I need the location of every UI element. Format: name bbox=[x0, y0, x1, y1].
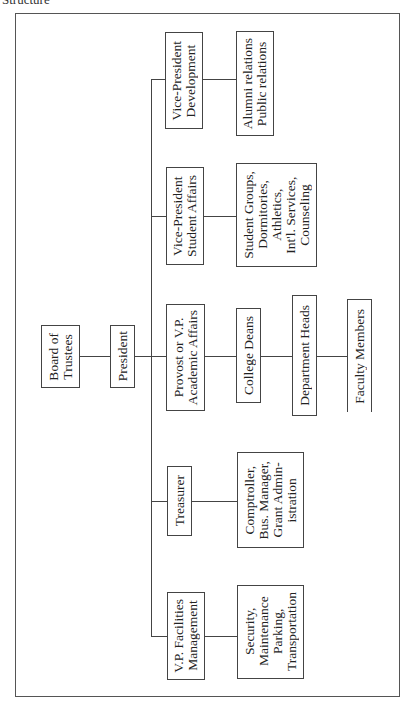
department-heads-box: Department Heads bbox=[292, 295, 317, 416]
board-of-trustees-box: Board of Trustees bbox=[41, 325, 80, 388]
vp-student-affairs-box: Vice-President Student Affairs bbox=[166, 167, 204, 265]
vp-facilities-label: V.P. Facilities Management bbox=[172, 599, 200, 673]
trunk-line bbox=[151, 79, 152, 636]
provost-label: Provost or V.P. Academic Affairs bbox=[172, 310, 200, 405]
deans-to-department-heads-connector bbox=[261, 356, 292, 357]
vp-development-label: Vice-President Development bbox=[170, 41, 198, 120]
trunk-to-vp-development-connector bbox=[151, 79, 165, 80]
faculty-members-label: Faculty Members bbox=[353, 309, 367, 404]
comptroller-box: Comptroller, Bus. Manager, Grant Admin- … bbox=[237, 452, 304, 548]
trunk-to-treasurer-connector bbox=[151, 501, 167, 502]
vp-student-affairs-to-child-connector bbox=[204, 216, 236, 217]
president-label: President bbox=[116, 331, 130, 381]
provost-box: Provost or V.P. Academic Affairs bbox=[166, 304, 205, 411]
treasurer-box: Treasurer bbox=[167, 466, 192, 536]
security-maintenance-label: Security, Maintenance Parking, Transport… bbox=[243, 592, 299, 671]
section-heading: Structure bbox=[2, 0, 50, 8]
trunk-to-vp-facilities-connector bbox=[151, 636, 167, 637]
board-to-president-connector bbox=[80, 356, 110, 357]
vp-development-to-child-connector bbox=[203, 79, 236, 80]
president-box: President bbox=[110, 325, 135, 388]
trunk-to-provost-connector bbox=[151, 356, 166, 357]
vp-development-box: Vice-President Development bbox=[165, 32, 203, 129]
student-services-label: Student Groups, Dormitories, Athletics, … bbox=[242, 171, 312, 259]
security-maintenance-box: Security, Maintenance Parking, Transport… bbox=[237, 585, 304, 679]
department-heads-label: Department Heads bbox=[298, 305, 312, 406]
vp-facilities-to-child-connector bbox=[205, 636, 237, 637]
alumni-public-relations-box: Alumni relations Public relations bbox=[236, 31, 274, 136]
college-deans-box: College Deans bbox=[236, 308, 261, 403]
faculty-members-box: Faculty Members bbox=[347, 299, 372, 412]
president-to-trunk-connector bbox=[135, 356, 151, 357]
college-deans-label: College Deans bbox=[242, 316, 256, 395]
trunk-to-vp-student-affairs-connector bbox=[151, 216, 166, 217]
vp-student-affairs-label: Vice-President Student Affairs bbox=[171, 175, 199, 257]
board-of-trustees-label: Board of Trustees bbox=[47, 333, 75, 381]
department-heads-to-faculty-connector bbox=[317, 356, 347, 357]
treasurer-label: Treasurer bbox=[173, 475, 187, 526]
provost-to-deans-connector bbox=[205, 356, 236, 357]
treasurer-to-child-connector bbox=[192, 501, 237, 502]
vp-facilities-box: V.P. Facilities Management bbox=[167, 592, 205, 680]
alumni-public-relations-label: Alumni relations Public relations bbox=[241, 38, 269, 129]
student-services-box: Student Groups, Dormitories, Athletics, … bbox=[236, 163, 317, 267]
comptroller-label: Comptroller, Bus. Manager, Grant Admin- … bbox=[243, 461, 299, 540]
